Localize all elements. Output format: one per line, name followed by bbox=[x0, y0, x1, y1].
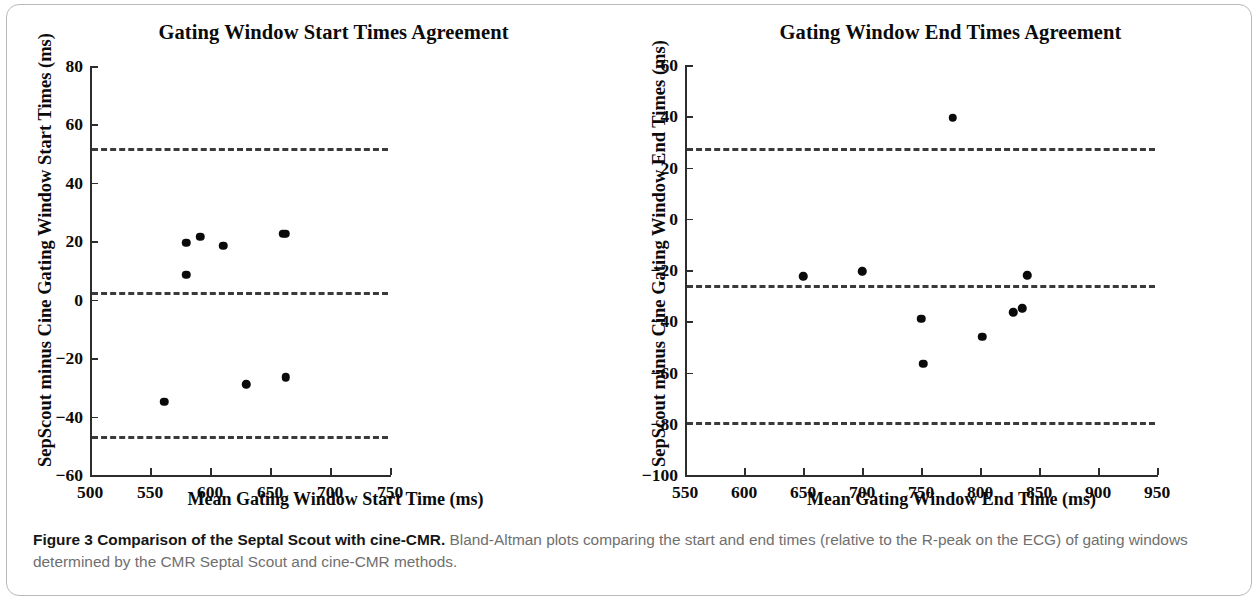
x-tick-right bbox=[980, 468, 982, 475]
x-tick-left bbox=[210, 468, 212, 475]
x-tick-right bbox=[1157, 468, 1159, 475]
y-tick-label-left: −40 bbox=[28, 406, 83, 427]
lower-limit-of-agreement-right bbox=[687, 422, 1155, 425]
y-tick-right bbox=[686, 168, 693, 170]
data-point bbox=[281, 373, 290, 382]
data-point bbox=[182, 271, 191, 280]
lower-limit-of-agreement-left bbox=[92, 436, 388, 439]
x-tick-label-right: 750 bbox=[908, 482, 934, 503]
y-tick-left bbox=[91, 124, 98, 126]
x-tick-right bbox=[862, 468, 864, 475]
x-tick-label-left: 700 bbox=[317, 482, 343, 503]
upper-limit-of-agreement-right bbox=[687, 148, 1155, 151]
data-point bbox=[196, 233, 205, 242]
data-point bbox=[978, 332, 987, 341]
caption-label: Figure 3 bbox=[33, 531, 93, 548]
y-tick-label-right: −40 bbox=[623, 311, 678, 332]
caption-title: Comparison of the Septal Scout with cine… bbox=[97, 531, 445, 548]
data-point bbox=[242, 380, 251, 389]
y-tick-label-right: 20 bbox=[623, 157, 678, 178]
figure-caption: Figure 3 Comparison of the Septal Scout … bbox=[33, 529, 1229, 573]
data-point bbox=[219, 241, 228, 250]
chart-panel-start-times: Gating Window Start Times Agreement SepS… bbox=[7, 5, 630, 523]
y-tick-label-left: −60 bbox=[28, 465, 83, 486]
x-tick-label-left: 550 bbox=[137, 482, 163, 503]
x-tick-label-right: 900 bbox=[1085, 482, 1111, 503]
y-tick-label-right: 0 bbox=[623, 208, 678, 229]
y-tick-right bbox=[686, 270, 693, 272]
plot-title-right: Gating Window End Times Agreement bbox=[630, 21, 1252, 44]
data-point bbox=[160, 398, 169, 407]
figure-card: Gating Window Start Times Agreement SepS… bbox=[6, 4, 1252, 596]
plots-area: Gating Window Start Times Agreement SepS… bbox=[7, 5, 1252, 523]
x-axis-line-left bbox=[90, 475, 391, 477]
y-tick-right bbox=[686, 373, 693, 375]
x-tick-left bbox=[390, 468, 392, 475]
upper-limit-of-agreement-left bbox=[92, 148, 388, 151]
mean-bias-left bbox=[92, 292, 388, 295]
data-point bbox=[919, 359, 928, 368]
y-axis-label-right: SepScout minus Cine Gating Window End Ti… bbox=[649, 40, 670, 467]
data-point bbox=[858, 267, 867, 276]
y-tick-label-left: 20 bbox=[28, 231, 83, 252]
y-tick-right bbox=[686, 65, 693, 67]
data-point bbox=[917, 314, 926, 323]
data-point bbox=[1023, 271, 1032, 280]
x-tick-right bbox=[921, 468, 923, 475]
y-tick-label-left: 0 bbox=[28, 289, 83, 310]
x-tick-label-right: 550 bbox=[672, 482, 698, 503]
y-tick-left bbox=[91, 358, 98, 360]
y-tick-left bbox=[91, 475, 98, 477]
x-tick-label-right: 850 bbox=[1026, 482, 1052, 503]
x-tick-label-right: 600 bbox=[731, 482, 757, 503]
x-axis-line-right bbox=[685, 475, 1158, 477]
x-tick-right bbox=[1039, 468, 1041, 475]
mean-bias-right bbox=[687, 285, 1155, 288]
plot-title-left: Gating Window Start Times Agreement bbox=[7, 21, 630, 44]
y-tick-left bbox=[91, 66, 98, 68]
data-point bbox=[1018, 304, 1027, 313]
x-tick-left bbox=[90, 468, 92, 475]
data-point bbox=[799, 272, 808, 281]
x-tick-label-left: 600 bbox=[197, 482, 223, 503]
x-tick-right bbox=[1098, 468, 1100, 475]
x-tick-left bbox=[150, 468, 152, 475]
x-tick-label-left: 650 bbox=[257, 482, 283, 503]
x-tick-right bbox=[744, 468, 746, 475]
y-tick-label-right: −60 bbox=[623, 362, 678, 383]
y-tick-label-left: −20 bbox=[28, 348, 83, 369]
data-point bbox=[281, 230, 290, 239]
x-tick-right bbox=[685, 468, 687, 475]
y-tick-left bbox=[91, 300, 98, 302]
x-tick-left bbox=[270, 468, 272, 475]
x-tick-label-right: 950 bbox=[1144, 482, 1170, 503]
x-tick-left bbox=[330, 468, 332, 475]
y-tick-label-left: 60 bbox=[28, 114, 83, 135]
data-point bbox=[182, 238, 191, 247]
chart-panel-end-times: Gating Window End Times Agreement SepSco… bbox=[630, 5, 1252, 523]
y-tick-label-left: 80 bbox=[28, 56, 83, 77]
data-point bbox=[1009, 308, 1018, 317]
x-tick-label-right: 800 bbox=[967, 482, 993, 503]
x-tick-right bbox=[803, 468, 805, 475]
y-tick-label-right: 40 bbox=[623, 106, 678, 127]
y-tick-left bbox=[91, 183, 98, 185]
y-tick-right bbox=[686, 321, 693, 323]
y-tick-left bbox=[91, 417, 98, 419]
y-tick-label-left: 40 bbox=[28, 172, 83, 193]
y-tick-label-right: 60 bbox=[623, 55, 678, 76]
data-point bbox=[949, 113, 958, 122]
y-tick-left bbox=[91, 241, 98, 243]
x-tick-label-left: 750 bbox=[377, 482, 403, 503]
y-tick-label-right: −80 bbox=[623, 413, 678, 434]
x-tick-label-right: 650 bbox=[790, 482, 816, 503]
y-tick-label-right: −20 bbox=[623, 260, 678, 281]
x-tick-label-right: 700 bbox=[849, 482, 875, 503]
y-axis-line-left bbox=[90, 66, 92, 476]
x-tick-label-left: 500 bbox=[77, 482, 103, 503]
y-tick-right bbox=[686, 475, 693, 477]
y-tick-right bbox=[686, 116, 693, 118]
y-tick-right bbox=[686, 219, 693, 221]
y-tick-label-right: −100 bbox=[623, 465, 678, 486]
